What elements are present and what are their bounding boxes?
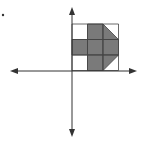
- shaded-cell: [88, 40, 104, 56]
- shaded-figure: [72, 24, 119, 71]
- shaded-cell: [103, 40, 119, 56]
- arrow-right-icon: [129, 68, 137, 74]
- shaded-cell: [103, 24, 119, 40]
- arrow-left-icon: [10, 68, 18, 74]
- coordinate-plane-diagram: [0, 0, 141, 144]
- shaded-cell: [103, 55, 119, 71]
- shaded-cell: [88, 24, 104, 40]
- shaded-cell: [72, 40, 88, 56]
- arrow-up-icon: [69, 7, 75, 15]
- axes: [10, 7, 137, 137]
- shaded-cell: [88, 55, 104, 71]
- arrow-down-icon: [69, 129, 75, 137]
- corner-dot-marker: [2, 14, 4, 16]
